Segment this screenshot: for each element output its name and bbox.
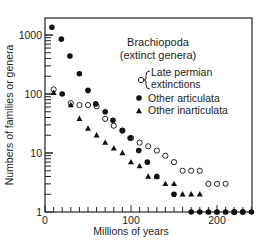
open-circle-marker	[223, 181, 228, 186]
filled-triangle-marker	[137, 163, 143, 168]
filled-triangle-marker	[94, 132, 100, 137]
filled-circle-marker	[136, 148, 142, 154]
filled-triangle-marker	[171, 181, 177, 186]
scatter-chart: 01002001101001000 Brachiopoda (extinct g…	[0, 0, 268, 252]
open-circle-marker	[146, 144, 151, 149]
filled-circle-marker	[67, 53, 73, 59]
filled-circle-marker	[240, 209, 246, 215]
legend-label-articulata: Other articulata	[148, 92, 220, 104]
filled-triangle-marker	[145, 173, 151, 178]
filled-triangle-marker	[180, 191, 186, 196]
filled-triangle-marker	[85, 125, 91, 130]
chart-title: Brachiopoda	[127, 36, 190, 48]
filled-triangle-marker	[136, 108, 142, 113]
open-circle-marker	[163, 153, 168, 158]
filled-circle-marker	[85, 88, 91, 94]
y-tick-label: 100	[24, 88, 42, 100]
open-circle-marker	[138, 77, 143, 82]
legend-bracket	[144, 71, 150, 89]
chart-subtitle: (extinct genera)	[120, 49, 196, 61]
open-circle-marker	[85, 102, 90, 107]
filled-triangle-marker	[119, 150, 125, 155]
filled-circle-marker	[136, 95, 142, 101]
x-axis-label: Millions of years	[93, 225, 168, 237]
filled-circle-marker	[127, 135, 133, 141]
filled-circle-marker	[59, 36, 65, 42]
filled-circle-marker	[49, 25, 55, 31]
legend: Late permianextinctionsOther articulataO…	[136, 66, 228, 116]
chart-container: 01002001101001000 Brachiopoda (extinct g…	[0, 0, 268, 252]
open-circle-marker	[154, 148, 159, 153]
y-tick-label: 1000	[19, 29, 43, 41]
filled-circle-marker	[188, 209, 194, 215]
y-tick-label: 1	[36, 206, 42, 218]
open-circle-marker	[180, 168, 185, 173]
y-axis-label: Numbers of families or genera	[3, 45, 15, 186]
filled-triangle-marker	[102, 139, 108, 144]
filled-triangle-marker	[197, 191, 203, 196]
open-circle-marker	[77, 102, 82, 107]
filled-circle-marker	[110, 117, 116, 123]
filled-triangle-marker	[76, 116, 82, 121]
filled-triangle-marker	[111, 145, 117, 150]
open-circle-marker	[197, 168, 202, 173]
x-tick-label: 200	[208, 214, 226, 226]
open-circle-marker	[137, 140, 142, 145]
filled-circle-marker	[120, 128, 126, 134]
filled-triangle-marker	[128, 159, 134, 164]
y-tick-label: 10	[30, 147, 42, 159]
open-circle-marker	[111, 123, 116, 128]
x-tick-label: 0	[42, 214, 48, 226]
open-circle-marker	[103, 116, 108, 121]
filled-circle-marker	[171, 191, 177, 197]
open-circle-marker	[214, 181, 219, 186]
legend-label-extinctions: extinctions	[151, 78, 201, 90]
filled-triangle-marker	[162, 181, 168, 186]
filled-triangle-marker	[188, 191, 194, 196]
open-circle-marker	[206, 181, 211, 186]
filled-circle-marker	[102, 109, 108, 115]
filled-circle-marker	[197, 209, 203, 215]
filled-circle-marker	[145, 159, 151, 165]
filled-circle-marker	[249, 209, 255, 215]
filled-circle-marker	[77, 71, 83, 77]
legend-label-inarticulata: Other inarticulata	[148, 104, 228, 116]
filled-circle-marker	[59, 91, 65, 97]
legend-label-late-permian: Late permian	[151, 66, 212, 78]
open-circle-marker	[171, 160, 176, 165]
open-circle-marker	[189, 168, 194, 173]
filled-circle-marker	[93, 101, 99, 107]
